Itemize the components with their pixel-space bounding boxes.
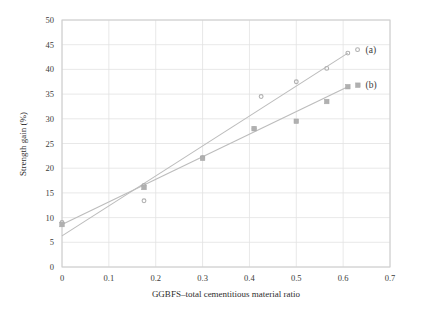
x-tick-2: 0.2: [150, 273, 161, 283]
data-point-b-4: [294, 119, 299, 124]
data-point-b-5: [324, 99, 329, 104]
y-tick-5: 25: [46, 139, 55, 149]
data-point-b-0: [60, 222, 65, 227]
data-point-b-1: [142, 185, 147, 190]
chart-container: 00.10.20.30.40.50.60.7 05101520253035404…: [0, 0, 428, 313]
y-tick-1: 5: [50, 237, 54, 247]
x-tick-3: 0.3: [197, 273, 208, 283]
y-tick-0: 0: [50, 262, 54, 272]
y-tick-6: 30: [46, 114, 55, 124]
y-tick-3: 15: [46, 188, 55, 198]
strength-gain-scatter-chart: 00.10.20.30.40.50.60.7 05101520253035404…: [0, 0, 428, 313]
y-axis-title: Strength gain (%): [18, 112, 28, 176]
y-tick-9: 45: [46, 40, 55, 50]
y-tick-7: 35: [46, 89, 55, 99]
data-point-b-3: [252, 126, 257, 131]
y-tick-2: 10: [46, 213, 55, 223]
x-tick-1: 0.1: [104, 273, 115, 283]
x-tick-5: 0.5: [291, 273, 302, 283]
x-axis-title: GGBFS–total cementitious material ratio: [152, 289, 301, 299]
y-tick-8: 40: [46, 64, 55, 74]
x-tick-0: 0: [60, 273, 64, 283]
x-tick-4: 0.4: [244, 273, 255, 283]
legend-marker-b: [356, 83, 361, 88]
x-tick-7: 0.7: [385, 273, 396, 283]
y-tick-4: 20: [46, 163, 55, 173]
y-tick-10: 50: [46, 15, 55, 25]
data-point-b-2: [200, 156, 205, 161]
series-label-a: (a): [366, 45, 377, 56]
x-tick-6: 0.6: [338, 273, 349, 283]
chart-background: [0, 0, 428, 313]
series-label-b: (b): [366, 80, 377, 91]
data-point-b-6: [346, 84, 351, 89]
